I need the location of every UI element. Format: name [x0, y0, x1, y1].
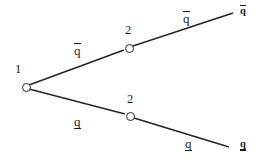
node-label-upper-branch: 2 — [125, 24, 131, 37]
node-label-lower-branch: 2 — [127, 93, 133, 106]
edge-root-to-lower-node — [29, 89, 125, 114]
edge-label-lower-to-endpoint: q — [185, 137, 192, 151]
edge-label-upper-to-endpoint: q — [183, 11, 190, 25]
edge-label-root-to-upper: q — [74, 43, 81, 57]
quark-glyph: q — [240, 139, 246, 151]
edge-lower-node-to-endpoint — [134, 118, 229, 147]
antiquark-glyph: q — [183, 11, 190, 25]
endpoint-label-lower: q — [240, 139, 246, 151]
antiquark-glyph: q — [240, 5, 246, 17]
node-lower-branch — [126, 112, 135, 121]
diagram-edges — [0, 0, 265, 157]
node-upper-branch — [125, 44, 134, 53]
antiquark-glyph: q — [74, 43, 81, 57]
endpoint-label-upper: q — [240, 5, 246, 17]
node-root — [22, 83, 31, 92]
quark-glyph: q — [185, 137, 192, 151]
diagram-canvas: 1 2 2 q q q q q q — [0, 0, 265, 157]
edge-label-root-to-lower: q — [74, 115, 81, 129]
quark-glyph: q — [74, 115, 81, 129]
node-label-root: 1 — [15, 63, 21, 76]
